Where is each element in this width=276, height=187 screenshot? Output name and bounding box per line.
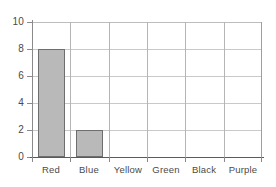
gridline-vertical (224, 22, 225, 157)
x-axis-tick-mark (261, 157, 262, 162)
x-axis-label-black: Black (185, 164, 223, 175)
x-axis-tick-mark (70, 157, 71, 162)
x-axis-label-green: Green (147, 164, 185, 175)
x-axis-tick-mark (109, 157, 110, 162)
x-axis-tick-mark (185, 157, 186, 162)
bar-red (38, 49, 65, 157)
y-axis-tick-label: 6 (2, 71, 24, 81)
gridline-vertical (109, 22, 110, 157)
x-axis-tick-mark (224, 157, 225, 162)
x-axis-tick-mark (147, 157, 148, 162)
y-axis-tick-label: 0 (2, 152, 24, 162)
x-axis-label-red: Red (32, 164, 70, 175)
gridline-vertical (185, 22, 186, 157)
y-axis-tick-label: 4 (2, 98, 24, 108)
y-axis-tick-label: 2 (2, 125, 24, 135)
x-axis-label-blue: Blue (70, 164, 108, 175)
bar-blue (76, 130, 103, 157)
gridline-vertical (261, 22, 262, 157)
x-axis-tick-mark (32, 157, 33, 162)
bar-chart: 10 8 6 4 2 0 (0, 0, 276, 187)
gridline-vertical (147, 22, 148, 157)
plot-area (32, 22, 262, 157)
y-axis-line (32, 20, 33, 159)
gridline-vertical (70, 22, 71, 157)
x-axis-label-yellow: Yellow (109, 164, 147, 175)
y-axis-tick-label: 8 (2, 44, 24, 54)
y-axis-tick-label: 10 (2, 17, 24, 27)
y-axis-labels: 10 8 6 4 2 0 (0, 0, 24, 187)
x-axis-label-purple: Purple (224, 164, 262, 175)
